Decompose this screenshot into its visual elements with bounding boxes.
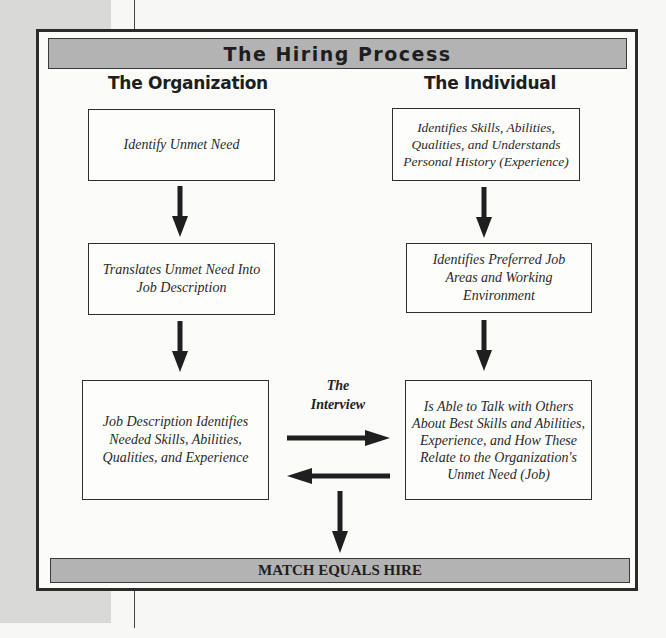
ind-step-1-text: Identifies Skills, Abilities, Qualities,…	[399, 119, 573, 170]
ind-step-identify-skills: Identifies Skills, Abilities, Qualities,…	[392, 108, 580, 181]
ind-step-talk-with-others: Is Able to Talk with Others About Best S…	[405, 380, 592, 500]
right-arrow-icon	[287, 428, 391, 448]
result-bar: MATCH EQUALS HIRE	[50, 558, 630, 583]
ind-step-2-text: Identifies Preferred Job Areas and Worki…	[413, 251, 585, 305]
ind-step-3-text: Is Able to Talk with Others About Best S…	[412, 398, 585, 483]
organization-heading: The Organization	[98, 73, 278, 93]
org-step-translate-job-description: Translates Unmet Need Into Job Descripti…	[88, 243, 275, 315]
org-step-identify-needed-skills: Job Description Identifies Needed Skills…	[82, 380, 269, 500]
org-step-identify-unmet-need: Identify Unmet Need	[88, 109, 275, 181]
ind-step-preferred-job-areas: Identifies Preferred Job Areas and Worki…	[406, 243, 592, 313]
interview-label: The Interview	[300, 376, 376, 414]
down-arrow-icon	[474, 187, 494, 239]
diagram-title: The Hiring Process	[48, 38, 627, 69]
org-step-2-text: Translates Unmet Need Into Job Descripti…	[95, 261, 268, 297]
down-arrow-icon	[330, 491, 350, 554]
down-arrow-icon	[170, 186, 190, 238]
down-arrow-icon	[474, 320, 494, 372]
individual-heading: The Individual	[400, 73, 580, 93]
left-arrow-icon	[286, 466, 390, 486]
org-step-1-text: Identify Unmet Need	[124, 136, 240, 154]
org-step-3-text: Job Description Identifies Needed Skills…	[89, 413, 262, 467]
down-arrow-icon	[170, 321, 190, 373]
